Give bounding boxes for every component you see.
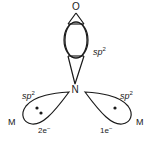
oxygen-label: O <box>72 1 80 12</box>
left-metal-label: M <box>8 117 16 127</box>
top-sp2-orbital <box>64 13 88 84</box>
right-electron-count: 1e− <box>100 125 113 135</box>
electron-dot <box>39 111 42 114</box>
right-orbital-label: sp2 <box>120 90 134 101</box>
right-metal-label: M <box>136 117 144 127</box>
electron-dot <box>113 106 116 109</box>
electron-dot <box>35 106 38 109</box>
orbital-diagram: O N sp2 sp2 sp2 M M 2e− 1e− <box>0 0 152 141</box>
nitrogen-label: N <box>71 84 78 95</box>
top-orbital-label: sp2 <box>93 46 107 57</box>
left-electron-count: 2e− <box>38 125 51 135</box>
